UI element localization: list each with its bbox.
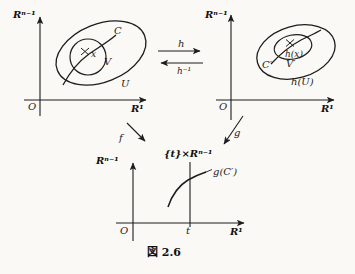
left-x-axis-label: R¹ bbox=[130, 103, 144, 114]
map-g-label: g bbox=[234, 127, 240, 138]
bottom-x-axis-label: R¹ bbox=[229, 226, 243, 237]
curve-Cprime-label: C′ bbox=[262, 59, 273, 70]
map-h-inverse-label: h⁻¹ bbox=[177, 66, 191, 76]
curve-gCprime-label: g(C′) bbox=[213, 166, 237, 177]
point-x-cross bbox=[81, 48, 89, 55]
diagram-canvas: Rⁿ⁻¹ R¹ O C V U x Rⁿ⁻¹ R¹ O h(x) V′ C′ h… bbox=[0, 0, 355, 274]
set-hU-label: h(U) bbox=[291, 76, 314, 87]
left-chart-panel: Rⁿ⁻¹ R¹ O C V U x bbox=[12, 9, 155, 116]
bottom-y-axis-label: Rⁿ⁻¹ bbox=[95, 155, 119, 166]
map-f-arrow bbox=[127, 123, 145, 141]
left-y-axis-label: Rⁿ⁻¹ bbox=[12, 9, 36, 20]
left-origin-label: O bbox=[28, 101, 36, 112]
map-h-label: h bbox=[178, 38, 184, 49]
curve-C-label: C bbox=[114, 25, 122, 36]
point-x-label: x bbox=[91, 49, 96, 59]
figure-2-6: Rⁿ⁻¹ R¹ O C V U x Rⁿ⁻¹ R¹ O h(x) V′ C′ h… bbox=[0, 0, 355, 274]
right-chart-panel: Rⁿ⁻¹ R¹ O h(x) V′ C′ h(U) bbox=[204, 9, 342, 120]
curve-gCprime-leader bbox=[205, 170, 212, 173]
map-f-label: f bbox=[118, 132, 125, 143]
set-U-label: U bbox=[121, 78, 130, 89]
right-y-axis-label: Rⁿ⁻¹ bbox=[204, 9, 228, 20]
bottom-origin-label: O bbox=[120, 225, 128, 236]
map-arrows: h h⁻¹ f g bbox=[118, 38, 243, 144]
set-Vprime-label: V′ bbox=[286, 58, 296, 69]
set-V-outline bbox=[70, 39, 106, 75]
point-hx-cross bbox=[286, 40, 294, 47]
right-origin-label: O bbox=[219, 101, 227, 112]
curve-gCprime bbox=[168, 172, 206, 207]
right-x-axis-label: R¹ bbox=[320, 103, 334, 114]
set-V-label: V bbox=[104, 56, 113, 67]
bottom-chart-panel: Rⁿ⁻¹ {t}×Rⁿ⁻¹ R¹ O t g(C′) bbox=[95, 148, 244, 241]
figure-caption: 図 2.6 bbox=[147, 245, 181, 259]
slice-label: {t}×Rⁿ⁻¹ bbox=[164, 148, 212, 159]
